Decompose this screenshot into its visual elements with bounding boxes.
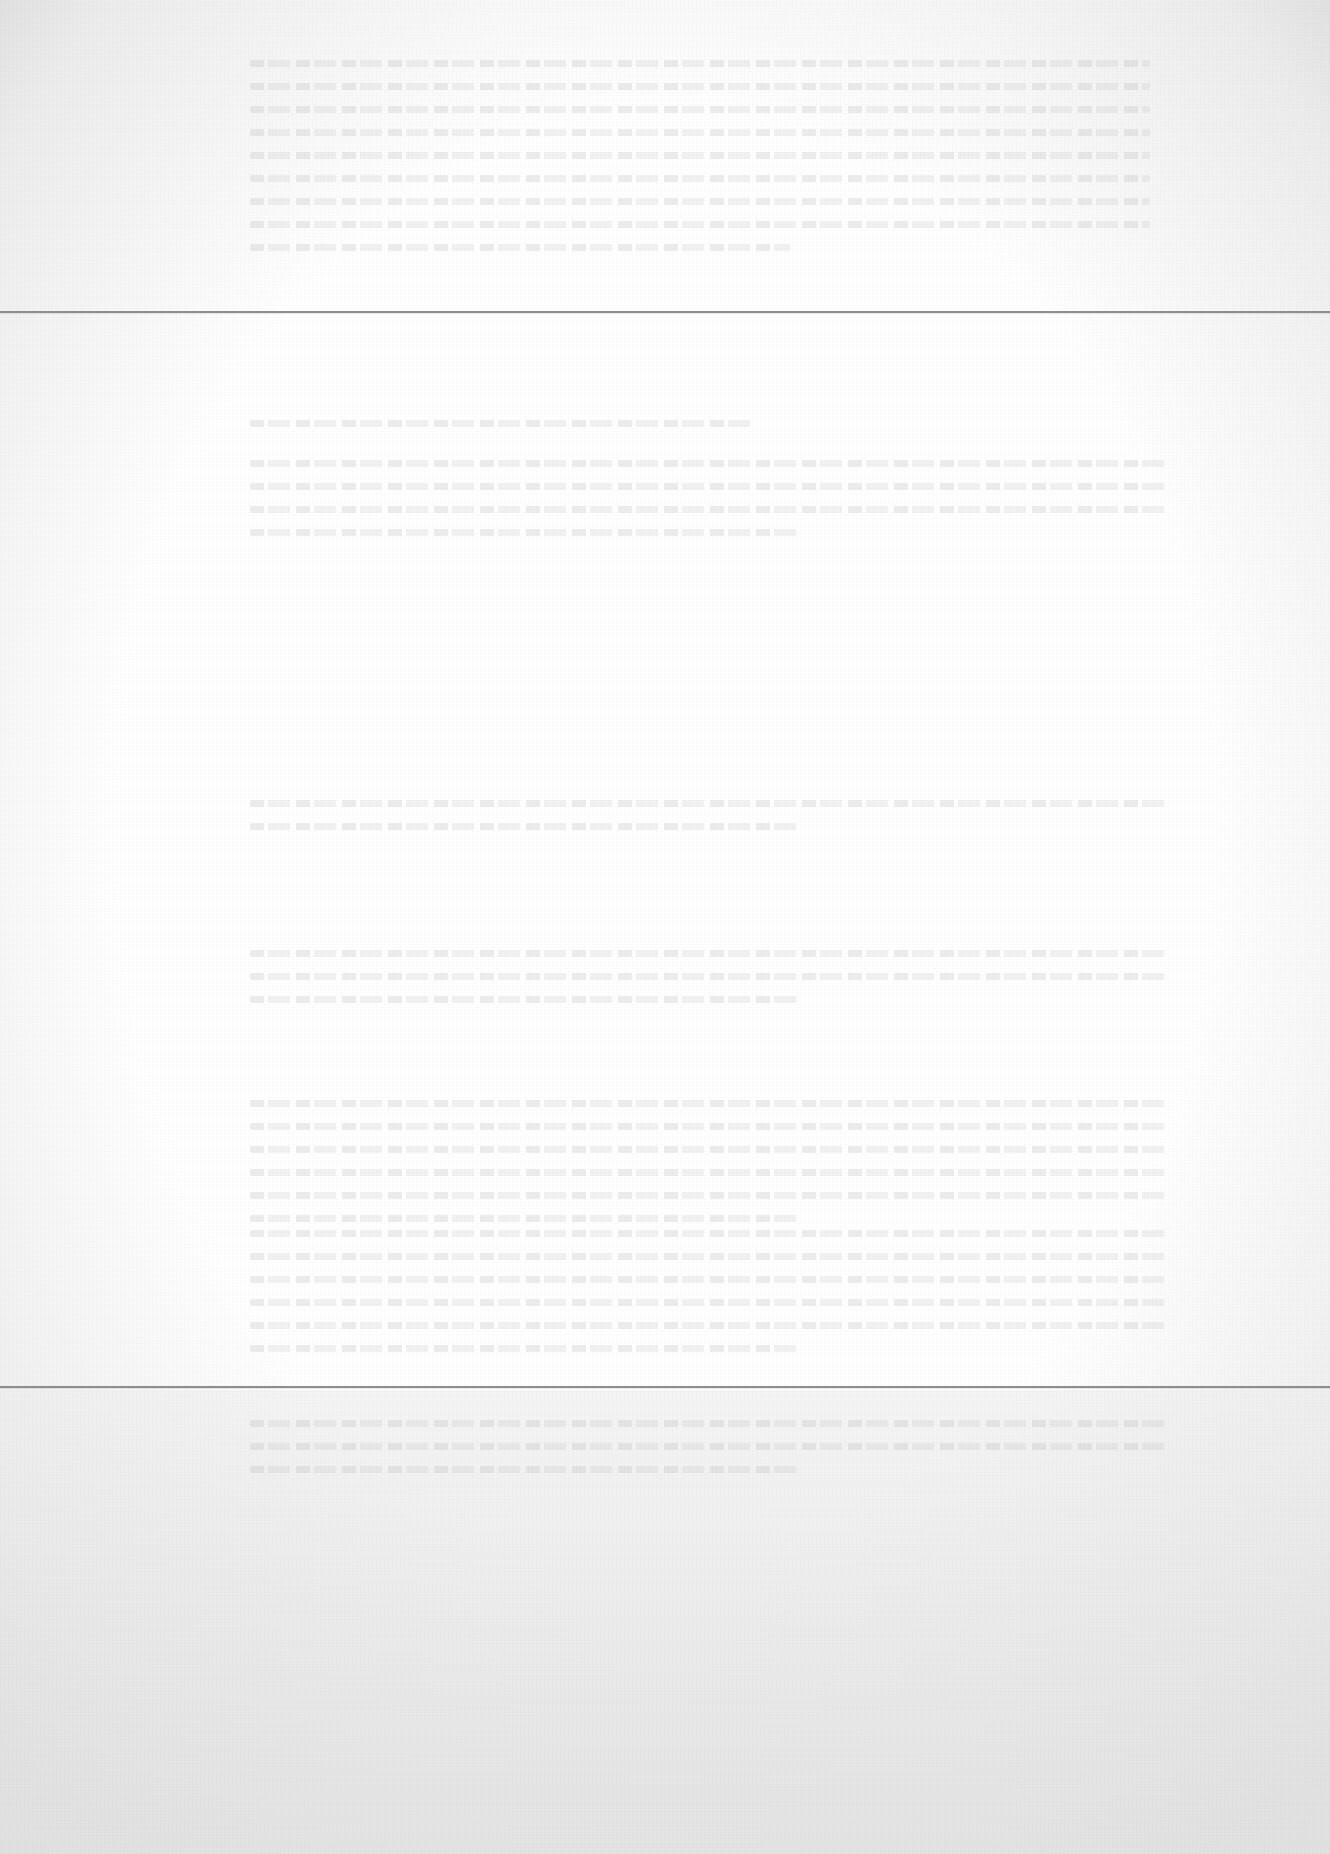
section-heading-block [250, 420, 750, 443]
header-block [250, 60, 1150, 267]
body-block-1 [250, 460, 1170, 552]
faded-text-line [250, 1169, 1170, 1176]
bottom-rule [0, 1386, 1330, 1388]
body-block-2 [250, 800, 1170, 846]
faded-text-line [250, 1420, 1170, 1427]
faded-text-line [250, 483, 1170, 490]
faded-text-line [250, 420, 750, 427]
faded-text-line [250, 1230, 1170, 1237]
faded-text-line [250, 460, 1170, 467]
faded-text-line [250, 106, 1150, 113]
faded-text-line [250, 1253, 1170, 1260]
faded-text-line [250, 996, 802, 1003]
faded-text-line [250, 152, 1150, 159]
faded-text-line [250, 1123, 1170, 1130]
body-block-5 [250, 1230, 1170, 1368]
faded-text-line [250, 198, 1150, 205]
faded-text-line [250, 973, 1170, 980]
body-block-4 [250, 1100, 1170, 1238]
faded-text-line [250, 1215, 802, 1222]
faded-text-line [250, 823, 802, 830]
faded-text-line [250, 1146, 1170, 1153]
faded-text-line [250, 1345, 802, 1352]
top-rule [0, 311, 1330, 313]
body-block-3 [250, 950, 1170, 1019]
faded-text-line [250, 1192, 1170, 1199]
faded-text-line [250, 129, 1150, 136]
faded-text-line [250, 1322, 1170, 1329]
faded-text-line [250, 529, 802, 536]
faded-text-line [250, 1100, 1170, 1107]
faded-text-line [250, 244, 790, 251]
faded-text-line [250, 950, 1170, 957]
faded-text-line [250, 175, 1150, 182]
faded-text-line [250, 506, 1170, 513]
faded-text-line [250, 1466, 802, 1473]
footer-block [250, 1420, 1170, 1489]
faded-text-line [250, 221, 1150, 228]
faded-text-line [250, 83, 1150, 90]
faded-text-line [250, 1443, 1170, 1450]
faded-text-line [250, 60, 1150, 67]
faded-text-line [250, 1276, 1170, 1283]
faded-text-line [250, 800, 1170, 807]
faded-text-line [250, 1299, 1170, 1306]
